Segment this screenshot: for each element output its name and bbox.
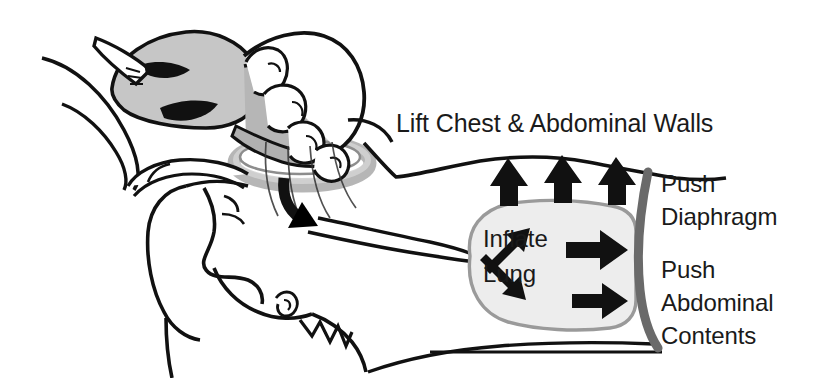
illustration-canvas: Lift Chest & Abdominal Walls Inflate Lun… <box>0 0 823 378</box>
push-abdominal-label-line2: Abdominal <box>661 291 774 315</box>
push-diaphragm-label-line1: Push <box>661 172 715 196</box>
push-diaphragm-label-line2: Diaphragm <box>661 205 778 229</box>
lung-label-line2: Lung <box>483 262 536 286</box>
hand-finger-4 <box>314 145 349 181</box>
push-abdominal-label-line1: Push <box>661 258 715 282</box>
head-ear <box>276 292 297 316</box>
page-title: Lift Chest & Abdominal Walls <box>396 111 713 136</box>
lung-label-line1: Inflate <box>483 227 548 251</box>
push-abdominal-label-line3: Contents <box>661 324 756 348</box>
